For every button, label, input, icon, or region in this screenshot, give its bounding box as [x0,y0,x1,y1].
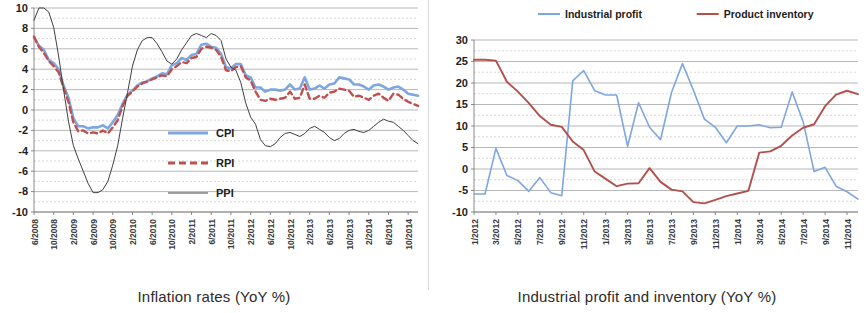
industrial-caption: Industrial profit and inventory (YoY %) [428,288,866,305]
y-tick-label: 25 [456,55,468,67]
y-tick-label: -4 [18,145,29,157]
x-tick-label: 3/2013 [623,219,633,245]
x-tick-label: 10/2014 [404,219,414,250]
x-tick-label: 11/2012 [579,219,589,250]
x-tick-label: 6/2013 [325,219,335,245]
y-tick-label: 15 [456,98,468,110]
industrial-panel: 302520151050-5-101/20123/20125/20127/201… [428,0,866,313]
y-tick-label: 4 [22,63,29,75]
series-line-cpi [34,38,418,129]
x-tick-label: 10/2010 [167,219,177,250]
x-tick-label: 11/2014 [843,219,853,250]
y-tick-label: 5 [462,141,468,153]
y-tick-label: -10 [12,206,28,218]
x-tick-label: 6/2012 [266,219,276,245]
industrial-chart: 302520151050-5-101/20123/20125/20127/201… [428,0,866,285]
x-tick-label: 10/2013 [345,219,355,250]
x-tick-label: 6/2009 [89,219,99,245]
x-tick-label: 10/2008 [49,219,59,250]
industrial-plot-wrap: 302520151050-5-101/20123/20125/20127/201… [428,0,866,285]
y-tick-label: -2 [18,124,28,136]
x-tick-label: 7/2013 [667,219,677,245]
y-tick-label: -8 [18,185,28,197]
y-tick-label: 0 [462,163,468,175]
x-tick-label: 10/2011 [226,219,236,250]
x-tick-label: 3/2012 [491,219,501,245]
legend-group: CPIRPIPPI [168,127,234,199]
x-tick-label: 6/2010 [148,219,158,245]
x-tick-label: 2/2014 [364,219,374,245]
y-tick-label: 8 [22,22,28,34]
figure-container: 1086420-2-4-6-8-106/200810/20082/20096/2… [0,0,866,313]
x-tick-labels-group: 6/200810/20082/20096/200910/20092/20106/… [30,212,414,250]
x-tick-label: 1/2012 [470,219,480,245]
y-tick-label: 10 [16,2,28,14]
x-tick-label: 2/2013 [305,219,315,245]
series-line-industrial-profit [474,64,858,199]
x-tick-label: 7/2012 [535,219,545,245]
x-tick-label: 9/2012 [557,219,567,245]
series-group [474,60,858,204]
x-tick-label: 5/2014 [777,219,787,245]
x-tick-label: 2/2009 [69,219,79,245]
y-tick-label: 0 [22,104,28,116]
y-tick-label: -6 [18,165,28,177]
x-tick-label: 5/2013 [645,219,655,245]
y-tick-label: -5 [458,184,468,196]
inflation-chart: 1086420-2-4-6-8-106/200810/20082/20096/2… [0,0,428,285]
x-tick-label: 9/2013 [689,219,699,245]
y-tick-label: 30 [456,34,468,46]
legend-label-rpi: RPI [216,157,234,169]
x-tick-label: 2/2011 [187,219,197,245]
y-tick-label: -10 [452,206,468,218]
x-tick-label: 7/2014 [799,219,809,245]
y-tick-labels-group: 302520151050-5-10 [452,34,474,218]
x-tick-label: 6/2008 [30,219,40,245]
y-tick-label: 2 [22,83,28,95]
x-tick-label: 5/2012 [513,219,523,245]
x-tick-label: 1/2013 [601,219,611,245]
x-tick-labels-group: 1/20123/20125/20127/20129/201211/20121/2… [470,212,853,249]
x-tick-label: 2/2010 [128,219,138,245]
x-tick-label: 6/2014 [384,219,394,245]
legend-label-ppi: PPI [216,187,234,199]
x-tick-label: 10/2009 [108,219,118,250]
x-tick-label: 10/2012 [286,219,296,250]
legend-label-product-inventory: Product inventory [724,8,814,20]
legend-group: Industrial profitProduct inventory [538,8,814,20]
y-tick-labels-group: 1086420-2-4-6-8-10 [12,2,34,218]
inflation-caption: Inflation rates (YoY %) [0,288,428,305]
x-tick-label: 6/2011 [207,219,217,245]
y-tick-label: 6 [22,43,28,55]
x-tick-label: 11/2013 [711,219,721,250]
x-tick-label: 1/2014 [733,219,743,245]
inflation-plot-wrap: 1086420-2-4-6-8-106/200810/20082/20096/2… [0,0,428,285]
x-tick-label: 3/2014 [755,219,765,245]
y-tick-label: 20 [456,77,468,89]
legend-label-cpi: CPI [216,127,234,139]
inflation-panel: 1086420-2-4-6-8-106/200810/20082/20096/2… [0,0,428,313]
x-tick-label: 9/2014 [821,219,831,245]
y-tick-label: 10 [456,120,468,132]
series-line-product-inventory [474,60,858,204]
legend-label-industrial-profit: Industrial profit [565,8,643,20]
x-tick-label: 2/2012 [246,219,256,245]
